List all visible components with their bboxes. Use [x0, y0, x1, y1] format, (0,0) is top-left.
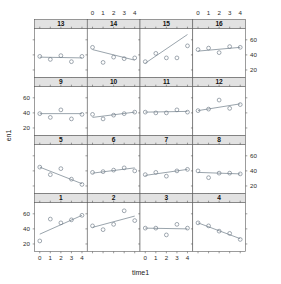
- left-axis-tick-label: 20: [23, 124, 30, 131]
- panel-13: 13: [33, 20, 89, 80]
- panel-strip-label-3: 3: [165, 194, 169, 201]
- right-axis-tick-label: 60: [250, 36, 257, 43]
- right-axis-tick-label: 60: [250, 152, 257, 159]
- bottom-axis-tick-label: 4: [186, 254, 190, 261]
- plot-canvas: 1314151691011125678123401234012340123401…: [0, 0, 281, 284]
- panel-2: 2: [85, 194, 141, 254]
- top-axis-tick-label: 4: [133, 9, 137, 16]
- right-axis-tick-label: 40: [250, 51, 257, 58]
- top-axis-tick-label: 2: [217, 9, 221, 16]
- bottom-axis-tick-label: 2: [165, 254, 169, 261]
- left-axis-tick-label: 40: [23, 225, 30, 232]
- panel-strip-label-12: 12: [215, 78, 223, 85]
- panel-frame-7: [140, 145, 193, 194]
- panel-5: 5: [33, 136, 89, 196]
- panel-strip-label-13: 13: [57, 20, 65, 27]
- panel-strip-label-6: 6: [112, 136, 116, 143]
- bottom-axis-tick-label: 4: [80, 254, 84, 261]
- panel-strip-label-5: 5: [59, 136, 63, 143]
- panel-frame-4: [193, 203, 246, 252]
- panel-strip-label-14: 14: [110, 20, 118, 27]
- panel-strip-label-10: 10: [110, 78, 118, 85]
- panel-9: 9: [33, 78, 89, 138]
- panel-strip-label-15: 15: [163, 20, 171, 27]
- top-axis-tick-label: 3: [122, 9, 126, 16]
- bottom-axis-tick-label: 3: [70, 254, 74, 261]
- panel-frame-3: [140, 203, 193, 252]
- panel-16: 16: [191, 20, 247, 80]
- panel-14: 14: [85, 20, 141, 80]
- panel-6: 6: [85, 136, 141, 196]
- panel-frame-10: [87, 87, 140, 136]
- panel-10: 10: [85, 78, 141, 138]
- panel-frame-12: [193, 87, 246, 136]
- panel-frame-15: [140, 29, 193, 78]
- panel-strip-label-2: 2: [112, 194, 116, 201]
- panel-1: 1: [33, 194, 89, 254]
- right-axis-tick-label: 20: [250, 66, 257, 73]
- x-axis-title: time1: [132, 269, 149, 276]
- top-axis-tick-label: 4: [238, 9, 242, 16]
- panel-strip-label-4: 4: [217, 194, 221, 201]
- panel-strip-label-11: 11: [163, 78, 170, 85]
- right-axis-tick-label: 40: [250, 167, 257, 174]
- panel-strip-label-8: 8: [217, 136, 221, 143]
- panel-3: 3: [138, 194, 194, 254]
- top-axis-tick-label: 1: [207, 9, 211, 16]
- panel-12: 12: [191, 78, 247, 138]
- panel-frame-8: [193, 145, 246, 194]
- panel-11: 11: [138, 78, 194, 138]
- bottom-axis-tick-label: 2: [59, 254, 63, 261]
- bottom-axis-tick-label: 0: [144, 254, 148, 261]
- bottom-axis-tick-label: 3: [175, 254, 179, 261]
- bottom-axis-tick-label: 1: [154, 254, 158, 261]
- top-axis-tick-label: 0: [196, 9, 200, 16]
- panel-frame-14: [87, 29, 140, 78]
- panel-7: 7: [138, 136, 194, 196]
- trellis-plot-figure: 1314151691011125678123401234012340123401…: [0, 0, 281, 284]
- panel-frame-1: [35, 203, 88, 252]
- y-axis-title: en1: [5, 130, 12, 142]
- panel-strip-label-1: 1: [59, 194, 63, 201]
- bottom-axis-tick-label: 0: [38, 254, 42, 261]
- left-axis-tick-label: 20: [23, 240, 30, 247]
- left-axis-tick-label: 40: [23, 109, 30, 116]
- panel-frame-6: [87, 145, 140, 194]
- left-axis-tick-label: 60: [23, 94, 30, 101]
- panel-4: 4: [191, 194, 247, 254]
- panel-strip-label-7: 7: [165, 136, 169, 143]
- right-axis-tick-label: 20: [250, 182, 257, 189]
- panel-frame-9: [35, 87, 88, 136]
- panel-strip-label-16: 16: [215, 20, 223, 27]
- panel-frame-16: [193, 29, 246, 78]
- bottom-axis-tick-label: 1: [49, 254, 53, 261]
- top-axis-tick-label: 3: [228, 9, 232, 16]
- panel-15: 15: [138, 20, 194, 80]
- panel-frame-13: [35, 29, 88, 78]
- top-axis-tick-label: 0: [91, 9, 95, 16]
- top-axis-tick-label: 1: [101, 9, 105, 16]
- panel-frame-5: [35, 145, 88, 194]
- panel-8: 8: [191, 136, 247, 196]
- panel-strip-label-9: 9: [59, 78, 63, 85]
- top-axis-tick-label: 2: [112, 9, 116, 16]
- left-axis-tick-label: 60: [23, 210, 30, 217]
